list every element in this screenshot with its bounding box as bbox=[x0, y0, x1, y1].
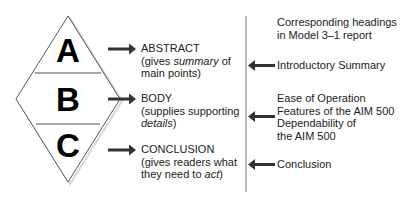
label-abstract: ABSTRACT (gives summary of main points) bbox=[141, 42, 231, 80]
right-column-header: Corresponding headings in Model 3–1 repo… bbox=[277, 16, 397, 41]
label-title: ABSTRACT bbox=[141, 42, 231, 55]
label-desc-line: (gives summary of bbox=[141, 55, 231, 68]
label-desc-line: details) bbox=[141, 117, 239, 130]
section-letter-c: C bbox=[48, 129, 88, 162]
heading-body-sections: Ease of Operation Features of the AIM 50… bbox=[277, 92, 394, 142]
arrow-right-icon bbox=[108, 44, 136, 55]
label-body: BODY (supplies supporting details) bbox=[141, 92, 239, 130]
heading-conclusion: Conclusion bbox=[277, 158, 331, 171]
label-desc-line: (gives readers what bbox=[141, 156, 237, 169]
arrow-right-icon bbox=[108, 145, 136, 156]
label-title: CONCLUSION bbox=[141, 143, 237, 156]
arrow-left-icon bbox=[248, 111, 275, 122]
arrow-left-icon bbox=[248, 159, 275, 170]
section-letter-a: A bbox=[48, 34, 88, 67]
heading-introductory-summary: Introductory Summary bbox=[277, 59, 385, 72]
section-letter-b: B bbox=[48, 83, 88, 116]
label-conclusion: CONCLUSION (gives readers what they need… bbox=[141, 143, 237, 181]
label-title: BODY bbox=[141, 92, 239, 105]
label-desc-line: main points) bbox=[141, 67, 231, 80]
label-desc-line: they need to act) bbox=[141, 168, 237, 181]
label-desc-line: (supplies supporting bbox=[141, 105, 239, 118]
arrow-left-icon bbox=[248, 60, 275, 71]
